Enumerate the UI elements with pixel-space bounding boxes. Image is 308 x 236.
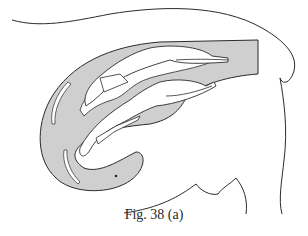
anatomical-figure bbox=[0, 0, 308, 236]
diagram-svg bbox=[0, 0, 308, 236]
ink-dot bbox=[115, 175, 118, 178]
figure-caption: Fig. 38 (a) bbox=[0, 207, 308, 223]
